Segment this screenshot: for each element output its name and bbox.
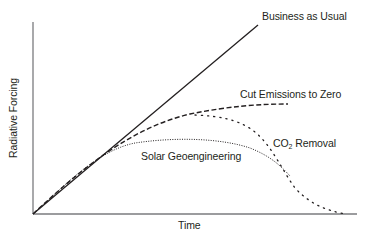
y-axis-label: Radiative Forcing (7, 78, 19, 158)
series-co2-removal (195, 115, 345, 214)
label-cut-emissions-to-zero: Cut Emissions to Zero (240, 88, 341, 100)
label-business-as-usual: Business as Usual (262, 10, 347, 22)
x-axis-label: Time (178, 219, 201, 231)
label-co2-removal: CO2 Removal (273, 137, 336, 150)
label-solar-geoengineering: Solar Geoengineering (141, 150, 241, 162)
co2-suffix: Removal (292, 137, 336, 149)
chart-canvas (0, 0, 372, 235)
co2-prefix: CO (273, 137, 289, 149)
series-business-as-usual (33, 25, 258, 214)
